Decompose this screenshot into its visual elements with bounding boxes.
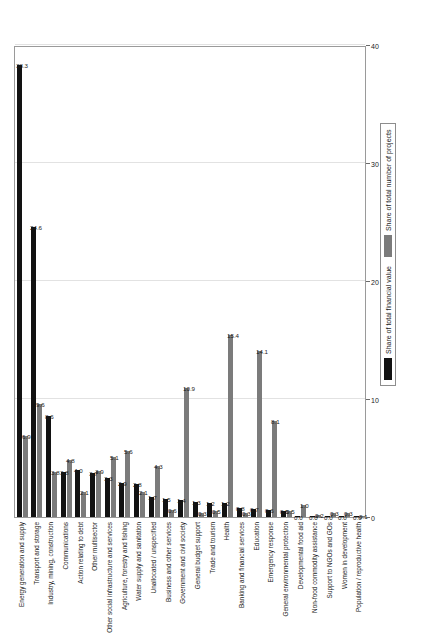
category-axis: Energy generation and supplyTransport an…	[14, 520, 366, 592]
bar-financial	[31, 227, 36, 517]
bar-value-label: 1.4	[177, 498, 186, 504]
category-label: Non-food commodity assistance	[312, 522, 318, 613]
bar-projects	[228, 335, 233, 517]
bar-group: 0.00.1	[354, 47, 367, 517]
legend-item-projects: Share of total number of projects	[384, 129, 392, 257]
bar-value-label: 38.3	[16, 63, 28, 69]
bar-value-label: 0.3	[198, 511, 207, 517]
bar-group: 1.215.4	[222, 47, 235, 517]
bar-group: 0.01.0	[295, 47, 308, 517]
bar-projects	[272, 421, 277, 517]
bar-value-label: 4.8	[66, 458, 75, 464]
category-label: Support to NGOs and GOs	[327, 522, 333, 598]
axis-tick-label: 30	[371, 161, 379, 168]
axis-tick	[366, 517, 370, 518]
bar-value-label: 4.0	[74, 468, 83, 474]
bar-value-label: 2.8	[133, 482, 142, 488]
bar-value-label: 0.5	[286, 509, 295, 515]
bar-value-label: 3.8	[51, 470, 60, 476]
bar-group: 38.36.9	[17, 47, 30, 517]
bar-projects	[37, 404, 42, 517]
bar-value-label: 0.3	[330, 511, 339, 517]
category-label: Water supply and sanitation	[136, 522, 142, 601]
legend-item-financial: Share of total financial value	[384, 266, 392, 380]
axis-tick-label: 20	[371, 279, 379, 286]
legend-swatch-financial-icon	[384, 358, 392, 380]
category-label: Women in development	[342, 522, 348, 589]
bar-group: 1.20.5	[207, 47, 220, 517]
bar-group: 1.30.3	[193, 47, 206, 517]
bar-value-label: 0.3	[344, 511, 353, 517]
category-label: Banking and financial services	[239, 522, 245, 608]
bar-value-label: 0.5	[212, 509, 221, 515]
bar-value-label: 1.2	[206, 501, 215, 507]
category-label: Energy generation and supply	[19, 522, 25, 607]
category-label: Population / reproductive health	[356, 522, 362, 612]
bar-group: 8.63.8	[46, 47, 59, 517]
bar-value-label: 8.6	[45, 414, 54, 420]
bar-value-label: 2.9	[118, 481, 127, 487]
bar-projects	[96, 471, 101, 517]
bar-series-container: 38.36.924.69.68.63.83.84.84.02.13.73.93.…	[15, 47, 365, 517]
bar-group: 3.84.8	[61, 47, 74, 517]
legend-label-projects: Share of total number of projects	[385, 129, 392, 231]
bar-value-label: 1.0	[300, 503, 309, 509]
axis-tick	[366, 399, 370, 400]
bar-projects	[23, 436, 28, 517]
category-label: Industry, mining, construction	[48, 522, 54, 605]
bar-value-label: 2.1	[139, 490, 148, 496]
bar-value-label: 24.6	[30, 225, 42, 231]
category-label: Unallocated / unspecified	[151, 522, 157, 593]
bar-value-label: 1.3	[192, 500, 201, 506]
axis-tick	[366, 163, 370, 164]
bar-value-label: 0.0	[294, 515, 303, 521]
category-label: Communications	[63, 522, 69, 570]
category-label: Government and civil society	[180, 522, 186, 604]
legend: Share of total financial value Share of …	[380, 123, 396, 386]
gridline	[15, 44, 365, 45]
bar-group: 3.35.1	[105, 47, 118, 517]
bar-value-label: 0.7	[250, 507, 259, 513]
bar-group: 1.50.6	[163, 47, 176, 517]
bar-group: 0.00.3	[325, 47, 338, 517]
category-label: Agriculture, forestry and fishing	[122, 522, 128, 610]
category-label: Business and other services	[166, 522, 172, 602]
bar-financial	[105, 478, 110, 517]
bar-group: 0.68.1	[266, 47, 279, 517]
bar-value-label: 1.5	[162, 497, 171, 503]
bar-projects	[111, 457, 116, 517]
bar-group: 1.410.9	[178, 47, 191, 517]
bar-value-label: 0.2	[315, 513, 324, 519]
bar-value-label: 3.3	[104, 476, 113, 482]
category-label: Transport and storage	[34, 522, 40, 585]
bar-group: 0.50.5	[281, 47, 294, 517]
bar-value-label: 2.1	[80, 490, 89, 496]
axis-tick	[366, 45, 370, 46]
bar-financial	[90, 473, 95, 517]
category-label: Trade and tourism	[210, 522, 216, 574]
legend-swatch-projects-icon	[384, 235, 392, 257]
bar-value-label: 0.3	[242, 511, 251, 517]
bar-financial	[46, 416, 51, 517]
bar-financial	[61, 472, 66, 517]
bar-financial	[119, 483, 124, 517]
axis-tick-label: 40	[371, 43, 379, 50]
axis-tick-label: 0	[371, 515, 375, 522]
bar-value-label: 5.6	[124, 449, 133, 455]
category-label: Other multisector	[92, 522, 98, 571]
bar-projects	[257, 351, 262, 517]
bar-value-label: 5.1	[110, 455, 119, 461]
bar-value-label: 1.7	[148, 495, 157, 501]
bar-value-label: 6.9	[22, 434, 31, 440]
bar-group: 0.714.1	[251, 47, 264, 517]
bar-value-label: 0.6	[168, 508, 177, 514]
category-label: Health	[224, 522, 230, 540]
bar-financial	[17, 65, 22, 517]
bar-group: 0.00.2	[310, 47, 323, 517]
category-label: Education	[254, 522, 260, 550]
bar-value-label: 4.3	[154, 464, 163, 470]
bar-group: 1.74.3	[149, 47, 162, 517]
